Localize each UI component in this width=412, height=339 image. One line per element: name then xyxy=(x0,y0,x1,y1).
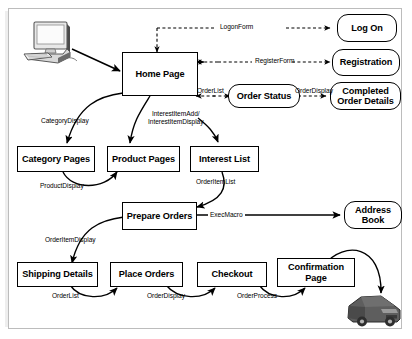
node-checkout-label: Checkout xyxy=(211,269,252,279)
node-checkout[interactable]: Checkout xyxy=(197,262,267,287)
node-interest-list-label: Interest List xyxy=(199,154,250,164)
node-interest-list[interactable]: Interest List xyxy=(190,146,259,172)
node-prepare-orders[interactable]: Prepare Orders xyxy=(122,202,197,230)
edge-label-logon-form: LogonForm xyxy=(220,23,253,31)
edge-label-order-list-top: OrderList xyxy=(197,87,224,95)
node-place-orders[interactable]: Place Orders xyxy=(110,262,183,287)
edge-label-category-display: CategoryDisplay xyxy=(41,117,89,125)
node-place-orders-label: Place Orders xyxy=(119,269,175,279)
node-registration[interactable]: Registration xyxy=(332,49,400,76)
node-product-pages[interactable]: Product Pages xyxy=(107,146,180,172)
node-category-pages[interactable]: Category Pages xyxy=(17,146,95,172)
node-log-on[interactable]: Log On xyxy=(337,14,397,42)
edge-label-order-display-bottom: OrderDisplay xyxy=(147,292,185,300)
node-shipping-details-label: Shipping Details xyxy=(22,269,92,279)
edge-label-register-form: RegisterForm xyxy=(255,57,294,65)
node-prepare-orders-label: Prepare Orders xyxy=(127,211,193,221)
node-order-status-label: Order Status xyxy=(237,91,291,101)
node-address-book-label: Address Book xyxy=(355,205,391,226)
edge-label-interest-item: InterestItemAdd/ InterestItemDisplay xyxy=(148,110,203,126)
node-home-page-label: Home Page xyxy=(135,69,184,79)
node-confirmation-page-label: Confirmation Page xyxy=(288,262,344,283)
edge-label-order-process: OrderProcess xyxy=(237,292,277,300)
node-shipping-details[interactable]: Shipping Details xyxy=(17,262,98,287)
node-completed-order-details-label: Completed Order Details xyxy=(337,86,393,107)
desktop-computer-icon xyxy=(18,16,78,66)
node-log-on-label: Log On xyxy=(351,23,383,33)
node-completed-order-details[interactable]: Completed Order Details xyxy=(330,82,401,110)
edge-label-order-display-top: OrderDisplay xyxy=(295,87,333,95)
node-product-pages-label: Product Pages xyxy=(112,154,175,164)
edge-label-order-item-list: OrderItemList xyxy=(196,178,235,186)
edge-label-order-list-bottom: OrderList xyxy=(52,292,79,300)
edge-label-exec-macro: ExecMacro xyxy=(208,211,245,219)
node-home-page[interactable]: Home Page xyxy=(122,52,198,96)
node-order-status[interactable]: Order Status xyxy=(228,84,300,108)
node-confirmation-page[interactable]: Confirmation Page xyxy=(277,258,355,287)
edge-label-product-display: ProductDisplay xyxy=(40,182,84,190)
diagram-canvas: Home Page Category Pages Product Pages I… xyxy=(0,0,412,339)
node-registration-label: Registration xyxy=(340,57,392,67)
delivery-truck-icon xyxy=(345,290,405,332)
node-address-book[interactable]: Address Book xyxy=(344,201,402,229)
node-category-pages-label: Category Pages xyxy=(22,154,90,164)
edge-label-order-item-display: OrderItemDisplay xyxy=(45,236,96,244)
